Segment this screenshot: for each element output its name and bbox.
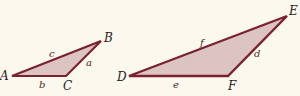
vertex-label-e: E: [288, 4, 298, 18]
side-label-a: a: [86, 57, 92, 68]
side-label-d: d: [254, 48, 260, 59]
triangle-abc: A B C c a b: [0, 31, 113, 93]
similar-triangles-diagram: A B C c a b D E F f d e: [0, 0, 300, 96]
vertex-label-d: D: [116, 70, 127, 84]
side-label-b: b: [39, 79, 45, 90]
side-label-c: c: [49, 48, 55, 59]
triangle-def: D E F f d e: [116, 4, 298, 93]
side-label-e: e: [173, 79, 179, 90]
vertex-label-c: C: [63, 79, 72, 93]
vertex-label-b: B: [103, 31, 113, 45]
vertex-label-f: F: [227, 79, 237, 93]
vertex-label-a: A: [0, 69, 9, 83]
triangle-def-shape: [129, 16, 287, 76]
